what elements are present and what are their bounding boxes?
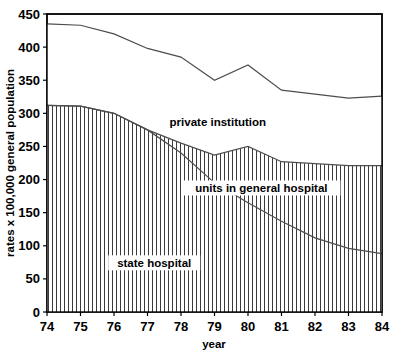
annotation-label: state hospital <box>117 257 191 269</box>
chart-container: 050100150200250300350400450 747576777879… <box>0 0 394 355</box>
x-tick-label-77: 77 <box>140 319 154 334</box>
annotation-private-institution: private institution <box>157 114 279 129</box>
y-axis-title: rates x 100,000 general population <box>4 69 16 257</box>
x-tick-label-82: 82 <box>308 319 322 334</box>
x-tick-label-75: 75 <box>73 319 87 334</box>
annotation-state-hospital: state hospital <box>108 255 200 270</box>
stacked-area-chart: 050100150200250300350400450 747576777879… <box>0 0 394 355</box>
annotation-label: units in general hospital <box>195 182 327 194</box>
y-tick-label-100: 100 <box>18 238 40 253</box>
annotation-label: private institution <box>170 116 266 128</box>
annotation-units-in-general-hospital: units in general hospital <box>182 180 340 195</box>
y-tick-label-250: 250 <box>18 139 40 154</box>
x-tick-label-78: 78 <box>174 319 188 334</box>
y-tick-label-50: 50 <box>26 271 40 286</box>
y-tick-label-0: 0 <box>33 305 40 320</box>
x-tick-label-79: 79 <box>207 319 221 334</box>
x-tick-label-76: 76 <box>107 319 121 334</box>
y-tick-label-200: 200 <box>18 172 40 187</box>
x-tick-label-84: 84 <box>375 319 390 334</box>
y-tick-label-350: 350 <box>18 73 40 88</box>
y-tick-label-150: 150 <box>18 205 40 220</box>
y-tick-label-300: 300 <box>18 106 40 121</box>
y-tick-label-400: 400 <box>18 40 40 55</box>
x-axis-title: year <box>202 338 226 350</box>
x-tick-label-81: 81 <box>274 319 288 334</box>
x-tick-label-80: 80 <box>241 319 255 334</box>
x-tick-label-74: 74 <box>40 319 55 334</box>
x-tick-label-83: 83 <box>341 319 355 334</box>
y-tick-label-450: 450 <box>18 7 40 22</box>
